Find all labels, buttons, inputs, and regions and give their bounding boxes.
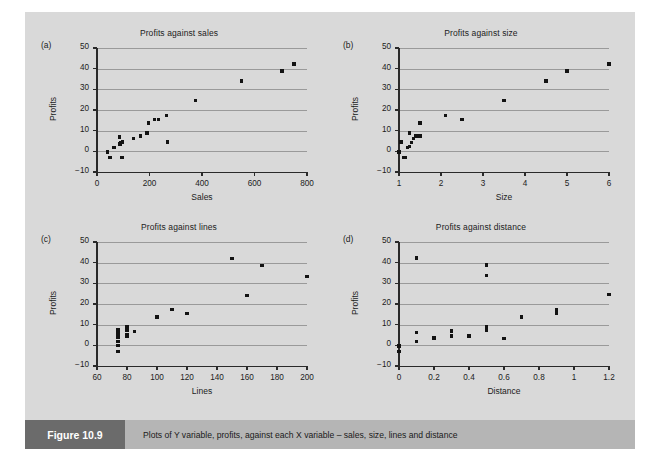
data-point (404, 156, 407, 159)
data-point (166, 140, 169, 143)
gridline (97, 69, 307, 70)
gridline (97, 151, 307, 152)
x-axis-title: Distance (399, 386, 609, 396)
data-point (112, 146, 115, 149)
y-axis-tick-label: 0 (361, 145, 391, 154)
y-axis-tick-label: 50 (361, 236, 391, 245)
plot-axes: −100102030405000.20.40.60.811.2 (399, 242, 609, 366)
x-axis-title: Sales (97, 192, 307, 202)
gridline (399, 151, 609, 152)
y-axis-tick-label: 50 (361, 42, 391, 51)
data-point (165, 114, 168, 117)
gridline (399, 263, 609, 264)
x-axis-line (97, 172, 307, 173)
y-axis-tick-label: −10 (361, 360, 391, 369)
y-axis-tick-label: −10 (59, 360, 89, 369)
scatter-panel-a: (a)Profits against sales−100102030405002… (35, 26, 323, 212)
gridline (97, 263, 307, 264)
data-point (116, 350, 119, 353)
y-axis-tick-label: 20 (59, 104, 89, 113)
gridline (97, 242, 307, 243)
data-point (125, 325, 128, 328)
data-point (410, 141, 413, 144)
scatter-panel-d: (d)Profits against distance−100102030405… (337, 220, 625, 406)
data-point (415, 340, 418, 343)
y-axis-line (96, 242, 97, 366)
y-axis-tick-label: 20 (361, 298, 391, 307)
data-point (116, 344, 119, 347)
x-axis-title: Lines (97, 386, 307, 396)
gridline (399, 69, 609, 70)
y-axis-tick-label: 30 (59, 83, 89, 92)
data-point (450, 329, 453, 332)
gridline (97, 345, 307, 346)
scatter-panel-c: (c)Profits against lines−100102030405060… (35, 220, 323, 406)
x-axis-tick-label: 0.2 (414, 373, 454, 382)
x-axis-tick-label: 4 (505, 179, 545, 188)
x-axis-tick-label: 1 (379, 179, 419, 188)
x-axis-tick-label: 1.2 (589, 373, 629, 382)
x-axis-tick-label: 200 (130, 179, 170, 188)
data-point (397, 344, 400, 347)
x-axis-tick-label: 0 (379, 373, 419, 382)
plot-title: Profits against sales (35, 28, 323, 38)
data-point (139, 134, 142, 137)
data-point (240, 79, 243, 82)
data-point (245, 294, 248, 297)
data-point (450, 334, 453, 337)
gridline (399, 325, 609, 326)
y-axis-tick-label: 0 (361, 339, 391, 348)
y-axis-tick-label: 20 (361, 104, 391, 113)
x-axis-title: Size (399, 192, 609, 202)
data-point (125, 333, 128, 336)
y-axis-tick-label: 40 (361, 63, 391, 72)
figure-caption-text: Plots of Y variable, profits, against ea… (143, 420, 629, 449)
y-axis-title: Profits (350, 47, 360, 171)
data-point (485, 328, 488, 331)
data-point (121, 140, 124, 143)
plot-title: Profits against lines (35, 222, 323, 232)
x-axis-tick-label: 600 (235, 179, 275, 188)
data-point (408, 145, 411, 148)
data-point (397, 350, 400, 353)
gridline (399, 345, 609, 346)
data-point (170, 308, 173, 311)
figure-plot-area: (a)Profits against sales−100102030405002… (25, 12, 635, 420)
gridline (97, 304, 307, 305)
data-point (565, 69, 568, 72)
data-point (230, 257, 233, 260)
y-axis-title: Profits (48, 241, 58, 365)
data-point (305, 275, 308, 278)
data-point (118, 135, 121, 138)
data-point (432, 336, 435, 339)
gridline (399, 48, 609, 49)
plot-title: Profits against size (337, 28, 625, 38)
x-axis-line (97, 366, 307, 367)
gridline (399, 242, 609, 243)
x-axis-tick-label: 800 (287, 179, 327, 188)
figure-caption-bar: Figure 10.9 Plots of Y variable, profits… (25, 420, 635, 449)
data-point (415, 331, 418, 334)
data-point (132, 137, 135, 140)
gridline (97, 48, 307, 49)
gridline (97, 283, 307, 284)
y-axis-title: Profits (48, 47, 58, 171)
data-point (467, 334, 470, 337)
data-point (260, 264, 263, 267)
y-axis-tick-label: 10 (361, 319, 391, 328)
y-axis-tick-label: 40 (361, 257, 391, 266)
data-point (147, 121, 150, 124)
data-point (544, 79, 547, 82)
x-axis-tick-label: 3 (463, 179, 503, 188)
x-axis-tick-label: 6 (589, 179, 629, 188)
x-axis-tick-label: 0.8 (519, 373, 559, 382)
data-point (116, 340, 119, 343)
plot-title: Profits against distance (337, 222, 625, 232)
gridline (97, 89, 307, 90)
data-point (116, 334, 119, 337)
y-axis-tick-label: 40 (59, 257, 89, 266)
x-axis-tick-label: 2 (421, 179, 461, 188)
gridline (399, 89, 609, 90)
figure-number-label: Figure 10.9 (25, 420, 125, 449)
data-point (106, 150, 109, 153)
